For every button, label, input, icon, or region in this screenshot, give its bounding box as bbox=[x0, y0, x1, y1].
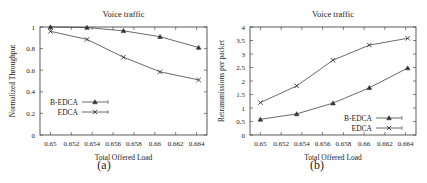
y-axis-label: Retransmissions per packet bbox=[217, 39, 226, 122]
chart-b-plot: Voice traffic0.650.6520.6540.6560.6580.6… bbox=[213, 0, 427, 183]
legend: B-EDCAEDCA bbox=[344, 114, 402, 133]
y-tick-label: 0 bbox=[32, 132, 36, 140]
series-edca bbox=[48, 29, 201, 82]
x-tick-label: 0.65 bbox=[44, 140, 57, 148]
series-edca bbox=[258, 36, 410, 105]
y-tick-label: 0.8 bbox=[26, 45, 35, 53]
series-line bbox=[260, 68, 407, 119]
legend-label: B-EDCA bbox=[344, 114, 373, 123]
x-marker bbox=[331, 58, 335, 62]
y-tick-label: 1 bbox=[32, 24, 36, 32]
y-tick-label: 0.6 bbox=[26, 67, 35, 75]
chart-title: Voice traffic bbox=[103, 9, 145, 19]
chart-panel-b: Voice traffic0.650.6520.6540.6560.6580.6… bbox=[213, 0, 427, 183]
legend-label: EDCA bbox=[352, 124, 373, 133]
x-tick-label: 0.664 bbox=[189, 140, 205, 148]
series-line bbox=[50, 31, 198, 80]
x-marker bbox=[258, 100, 262, 104]
chart-title: Voice traffic bbox=[312, 9, 354, 19]
x-tick-label: 0.664 bbox=[398, 140, 414, 148]
x-tick-label: 0.654 bbox=[84, 140, 100, 148]
legend: B-EDCAEDCA bbox=[50, 98, 108, 117]
triangle-marker bbox=[331, 101, 336, 105]
x-tick-label: 0.652 bbox=[273, 140, 289, 148]
x-tick-label: 0.654 bbox=[294, 140, 310, 148]
x-tick-label: 0.658 bbox=[126, 140, 142, 148]
y-tick-label: 0.2 bbox=[26, 110, 35, 118]
y-tick-label: 0.4 bbox=[26, 88, 35, 96]
y-tick-label: 4 bbox=[242, 24, 246, 32]
x-tick-label: 0.662 bbox=[168, 140, 184, 148]
caption-a: (a) bbox=[84, 158, 124, 173]
y-tick-label: 0 bbox=[242, 132, 246, 140]
x-tick-label: 0.658 bbox=[336, 140, 352, 148]
x-tick-label: 0.66 bbox=[358, 140, 371, 148]
triangle-marker bbox=[405, 66, 410, 70]
legend-label: EDCA bbox=[58, 108, 79, 117]
x-tick-label: 0.656 bbox=[105, 140, 121, 148]
x-tick-label: 0.656 bbox=[315, 140, 331, 148]
y-tick-label: 0.5 bbox=[236, 118, 245, 126]
y-tick-label: 3 bbox=[242, 51, 246, 59]
y-tick-label: 1 bbox=[242, 105, 246, 113]
y-tick-label: 1.5 bbox=[236, 91, 245, 99]
y-axis-label: Normalized Throughput bbox=[8, 44, 17, 117]
plot-frame bbox=[250, 27, 416, 135]
chart-a-plot: Voice traffic0.650.6520.6540.6560.6580.6… bbox=[0, 0, 213, 183]
series-line bbox=[260, 38, 407, 102]
x-marker bbox=[294, 84, 298, 88]
y-tick-label: 2 bbox=[242, 78, 246, 86]
x-tick-label: 0.662 bbox=[377, 140, 393, 148]
y-tick-label: 2.5 bbox=[236, 64, 245, 72]
chart-panel-a: Voice traffic0.650.6520.6540.6560.6580.6… bbox=[0, 0, 213, 183]
caption-b: (b) bbox=[297, 158, 337, 173]
x-tick-label: 0.652 bbox=[63, 140, 79, 148]
triangle-marker bbox=[367, 86, 372, 90]
x-tick-label: 0.66 bbox=[149, 140, 162, 148]
x-marker bbox=[121, 55, 125, 59]
y-tick-label: 3.5 bbox=[236, 37, 245, 45]
legend-label: B-EDCA bbox=[50, 98, 79, 107]
x-tick-label: 0.65 bbox=[254, 140, 267, 148]
